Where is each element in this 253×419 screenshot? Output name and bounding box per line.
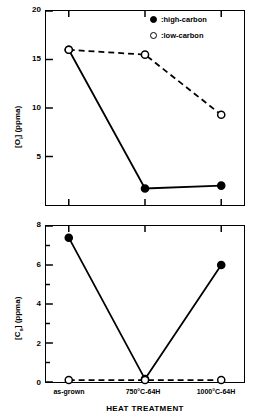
data-point-high-carbon <box>218 261 225 268</box>
y-axis-label-carbon-main: [C <box>13 332 22 340</box>
data-point-low-carbon <box>141 51 148 58</box>
y-axis-label-oxygen-tail: ] (ppma) <box>13 106 22 138</box>
filled-circle-icon <box>150 16 157 23</box>
data-point-low-carbon <box>141 376 148 383</box>
plot-panel-carbon <box>45 225 245 383</box>
legend-label-low-carbon: :low-carbon <box>161 31 204 40</box>
y-axis-label-carbon: [Cs] (ppma) <box>13 297 24 340</box>
legend-item-low-carbon: :low-carbon <box>150 28 204 41</box>
y-tick-label: 15 <box>32 55 41 63</box>
x-axis-tick-as-grown: as-grown <box>44 388 94 395</box>
y-axis-label-oxygen-main: [O <box>13 139 22 148</box>
series-line-high-carbon <box>69 50 221 189</box>
y-tick-label: 20 <box>32 6 41 14</box>
y-axis-label-carbon-sub: s <box>18 328 24 331</box>
y-axis-label-oxygen: [Oi] (ppma) <box>13 106 24 148</box>
y-tick-label: 10 <box>32 104 41 112</box>
x-axis-title: HEAT TREATMENT <box>45 404 245 413</box>
y-tick-label: 2 <box>37 340 41 348</box>
data-point-low-carbon <box>218 111 225 118</box>
y-tick-label: 6 <box>37 261 41 269</box>
y-tick-label: 5 <box>37 153 41 161</box>
data-point-low-carbon <box>65 46 72 53</box>
plot-area-carbon <box>46 226 244 382</box>
y-axis-label-carbon-tail: ] (ppma) <box>13 297 22 329</box>
legend-item-high-carbon: :high-carbon <box>150 12 207 25</box>
series-line-high-carbon <box>69 238 221 379</box>
figure-oxygen-carbon-vs-heat-treatment: 5101520 [Oi] (ppma) :high-carbon :low-ca… <box>0 0 253 419</box>
legend-label-high-carbon: :high-carbon <box>161 15 207 24</box>
y-axis-label-oxygen-sub: i <box>18 137 24 139</box>
x-axis-tick-1000c: 1000°C-64H <box>184 388 248 395</box>
y-tick-label: 8 <box>37 221 41 229</box>
data-point-low-carbon <box>218 376 225 383</box>
data-point-low-carbon <box>65 376 72 383</box>
series-line-low-carbon <box>69 50 221 115</box>
x-axis-tick-750c: 750°C-64H <box>113 388 173 395</box>
data-point-high-carbon <box>65 234 72 241</box>
open-circle-icon <box>150 32 157 39</box>
data-point-high-carbon <box>218 182 225 189</box>
legend: :high-carbon :low-carbon <box>150 12 242 44</box>
data-point-high-carbon <box>141 185 148 192</box>
y-tick-label: 0 <box>37 379 41 387</box>
y-tick-label: 4 <box>37 300 41 308</box>
